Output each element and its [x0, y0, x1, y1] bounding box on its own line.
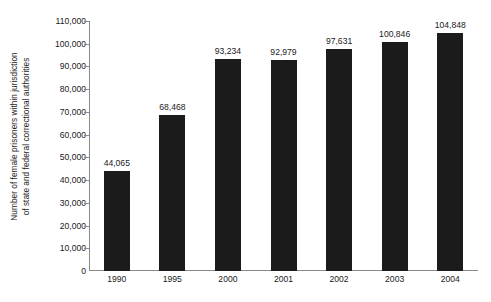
- bar-value-label: 68,468: [159, 103, 185, 112]
- x-axis-tick-label: 2003: [372, 274, 418, 285]
- bar-group: 104,848: [437, 21, 463, 271]
- y-axis-title: Number of female prisoners within jurisd…: [0, 0, 40, 272]
- bar-value-label: 44,065: [104, 159, 130, 168]
- bar-group: 68,468: [159, 21, 185, 271]
- y-axis-tick-label: 90,000: [36, 62, 86, 71]
- bar-value-label: 97,631: [326, 37, 352, 46]
- bar-group: 97,631: [326, 21, 352, 271]
- x-axis-tick-label: 2001: [261, 274, 307, 285]
- bar[interactable]: [215, 59, 241, 271]
- y-axis-tick-mark: [84, 203, 89, 204]
- y-axis-tick-mark: [84, 112, 89, 113]
- x-axis-tick-label: 1990: [94, 274, 140, 285]
- y-axis-tick-label: 70,000: [36, 107, 86, 116]
- bar-value-label: 104,848: [435, 21, 466, 30]
- y-axis-tick-mark: [84, 135, 89, 136]
- x-axis-tick-label: 2002: [316, 274, 362, 285]
- y-axis-tick-label: 80,000: [36, 85, 86, 94]
- bar[interactable]: [382, 42, 408, 271]
- bar-group: 44,065: [104, 21, 130, 271]
- bar-group: 93,234: [215, 21, 241, 271]
- y-axis-tick-label: 40,000: [36, 176, 86, 185]
- bar[interactable]: [437, 33, 463, 271]
- y-axis-tick-mark: [84, 66, 89, 67]
- x-axis-tick-label: 2004: [427, 274, 473, 285]
- bar-value-label: 100,846: [379, 30, 410, 39]
- x-axis-tick-label: 2000: [205, 274, 251, 285]
- y-axis-tick-mark: [84, 157, 89, 158]
- y-axis-tick-mark: [84, 180, 89, 181]
- y-axis-tick-label: 110,000: [36, 17, 86, 26]
- y-axis-tick-label: 50,000: [36, 153, 86, 162]
- y-axis-tick-label: 100,000: [36, 39, 86, 48]
- y-axis-title-line-1: Number of female prisoners within jurisd…: [9, 52, 21, 220]
- bar[interactable]: [326, 49, 352, 271]
- y-axis-tick-label: 0: [36, 267, 86, 276]
- y-axis-tick-mark: [84, 248, 89, 249]
- y-axis-tick-mark: [84, 21, 89, 22]
- x-axis-tick-label: 1995: [149, 274, 195, 285]
- y-axis-tick-label: 10,000: [36, 244, 86, 253]
- y-axis-tick-mark: [84, 226, 89, 227]
- bar[interactable]: [271, 60, 297, 271]
- y-axis-tick-label: 20,000: [36, 221, 86, 230]
- plot-area: 44,06568,46893,23492,97997,631100,846104…: [89, 21, 478, 271]
- y-axis-tick-label: 60,000: [36, 130, 86, 139]
- bar-group: 92,979: [271, 21, 297, 271]
- bar-value-label: 93,234: [215, 47, 241, 56]
- bar-group: 100,846: [382, 21, 408, 271]
- bar[interactable]: [159, 115, 185, 271]
- y-axis-tick-label: 30,000: [36, 198, 86, 207]
- bar-chart: Number of female prisoners within jurisd…: [0, 0, 491, 302]
- y-axis-tick-labels: 010,00020,00030,00040,00050,00060,00070,…: [36, 0, 86, 302]
- x-axis-tick-labels: 1990199520002001200220032004: [89, 274, 478, 290]
- bar-value-label: 92,979: [270, 48, 296, 57]
- y-axis-title-line-2: of state and federal correctional author…: [20, 52, 32, 220]
- y-axis-tick-mark: [84, 89, 89, 90]
- y-axis-tick-mark: [84, 44, 89, 45]
- bar[interactable]: [104, 171, 130, 271]
